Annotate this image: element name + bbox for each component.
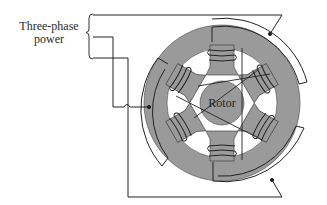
power-brace (86, 14, 93, 59)
rotor: Rotor (200, 81, 244, 125)
pole-bottom (206, 131, 238, 161)
motor-diagram: Three-phase power (0, 0, 327, 205)
diagram-canvas: Rotor (0, 0, 327, 205)
pole-top (206, 45, 238, 75)
rotor-label: Rotor (208, 96, 235, 110)
